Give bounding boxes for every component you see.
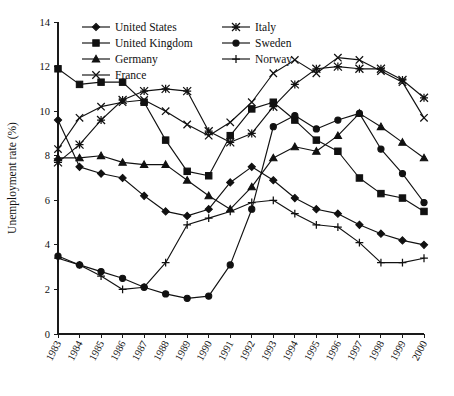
- legend-label: Sweden: [255, 37, 292, 49]
- legend-entry-sweden[interactable]: Sweden: [222, 37, 292, 49]
- marker-circle: [292, 113, 298, 119]
- marker-circle: [378, 146, 384, 152]
- x-tick-label: 1984: [65, 338, 85, 362]
- legend-entry-norway[interactable]: Norway: [222, 53, 292, 66]
- marker-plus: [291, 210, 299, 218]
- marker-square: [55, 66, 61, 72]
- marker-square: [98, 79, 104, 85]
- marker-diamond: [356, 221, 363, 228]
- series-sweden: [55, 110, 427, 301]
- series-path: [58, 67, 424, 163]
- marker-star-x: [162, 85, 170, 93]
- marker-circle: [206, 293, 212, 299]
- marker-star-x: [334, 63, 342, 71]
- y-tick-label: 8: [45, 150, 50, 161]
- marker-circle: [227, 262, 233, 268]
- marker-plus: [232, 55, 240, 63]
- marker-square: [206, 173, 212, 179]
- legend-entry-united-states[interactable]: United States: [82, 21, 177, 33]
- marker-star-x: [205, 127, 213, 135]
- marker-diamond: [399, 237, 406, 244]
- x-tick-label: 1993: [259, 339, 279, 363]
- marker-square: [162, 137, 168, 143]
- y-tick-label: 6: [45, 195, 50, 206]
- marker-plus: [312, 221, 320, 229]
- x-tick-label: 1986: [108, 339, 128, 363]
- x-tick-label: 1994: [281, 338, 301, 362]
- marker-plus: [119, 286, 127, 294]
- marker-star-x: [232, 23, 240, 31]
- x-tick-label: 1995: [302, 339, 322, 363]
- marker-plus: [334, 223, 342, 231]
- marker-plus: [420, 254, 428, 262]
- y-tick-label: 4: [45, 239, 51, 250]
- marker-star-x: [420, 94, 428, 102]
- marker-circle: [163, 291, 169, 297]
- marker-square: [249, 106, 255, 112]
- marker-star-x: [269, 103, 277, 111]
- marker-square: [76, 81, 82, 87]
- marker-circle: [421, 199, 427, 205]
- marker-cross-x: [270, 70, 277, 77]
- marker-circle: [119, 275, 125, 281]
- marker-plus: [76, 261, 84, 269]
- x-tick-label: 1989: [173, 339, 193, 363]
- marker-square: [378, 190, 384, 196]
- marker-circle: [184, 295, 190, 301]
- marker-square: [119, 79, 125, 85]
- y-axis-title: Unemployment rate (%): [6, 122, 19, 234]
- marker-triangle: [183, 177, 190, 184]
- series-norway: [54, 196, 428, 293]
- x-tick-label: 1987: [130, 339, 150, 363]
- marker-square: [313, 137, 319, 143]
- series-path: [58, 113, 424, 298]
- marker-star-x: [183, 87, 191, 95]
- marker-square: [335, 148, 341, 154]
- series-path: [58, 69, 424, 212]
- marker-square: [399, 195, 405, 201]
- series-italy: [54, 63, 428, 167]
- marker-cross-x: [183, 121, 190, 128]
- y-tick-label: 14: [40, 17, 51, 28]
- series-path: [58, 200, 424, 289]
- y-tick-label: 10: [40, 106, 51, 117]
- marker-star-x: [76, 141, 84, 149]
- series-united-states: [54, 116, 427, 248]
- marker-star-x: [248, 129, 256, 137]
- marker-plus: [399, 259, 407, 267]
- marker-star-x: [355, 65, 363, 73]
- legend-label: United States: [115, 21, 177, 33]
- legend-entry-germany[interactable]: Germany: [82, 53, 158, 66]
- x-tick-label: 1998: [367, 339, 387, 363]
- unemployment-rate-chart: United StatesItalyUnited KingdomSwedenGe…: [0, 0, 454, 396]
- marker-circle: [335, 117, 341, 123]
- legend-label: United Kingdom: [115, 37, 193, 50]
- marker-diamond: [313, 206, 320, 213]
- x-tick-label: 1997: [345, 339, 365, 363]
- marker-star-x: [291, 80, 299, 88]
- marker-circle: [399, 170, 405, 176]
- marker-diamond: [184, 212, 191, 219]
- marker-plus: [205, 214, 213, 222]
- marker-cross-x: [227, 119, 234, 126]
- x-tick-label: 1996: [324, 339, 344, 363]
- marker-star-x: [377, 65, 385, 73]
- legend-entry-france[interactable]: France: [82, 69, 146, 81]
- series-path: [58, 58, 424, 149]
- marker-square: [184, 168, 190, 174]
- series-united-kingdom: [55, 66, 427, 215]
- marker-square: [356, 175, 362, 181]
- marker-plus: [183, 221, 191, 229]
- legend-entry-united-kingdom[interactable]: United Kingdom: [82, 37, 193, 50]
- marker-cross-x: [162, 107, 169, 114]
- marker-cross-x: [420, 114, 427, 121]
- marker-triangle: [420, 154, 427, 161]
- chart-series-layer: [54, 54, 428, 301]
- marker-plus: [269, 196, 277, 204]
- marker-square: [421, 208, 427, 214]
- x-tick-label: 1983: [44, 339, 64, 363]
- legend-label: Italy: [255, 21, 276, 34]
- x-tick-label: 2000: [410, 339, 430, 363]
- legend-label: Norway: [255, 53, 292, 66]
- legend-entry-italy[interactable]: Italy: [222, 21, 276, 34]
